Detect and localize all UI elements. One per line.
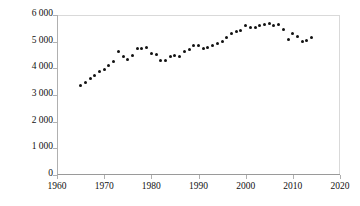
data-point <box>263 23 266 26</box>
y-axis-tick <box>53 68 57 69</box>
x-axis-tick <box>340 175 341 179</box>
data-point <box>178 55 181 58</box>
data-point <box>221 40 224 43</box>
x-axis-tick <box>293 175 294 179</box>
x-axis-tick <box>199 175 200 179</box>
data-point <box>136 47 139 50</box>
data-point <box>287 38 290 41</box>
data-point <box>89 77 92 80</box>
x-axis-label: 2000 <box>226 182 266 192</box>
y-axis-tick <box>53 15 57 16</box>
y-axis-label: 2 000 <box>32 116 53 126</box>
data-point <box>282 28 285 31</box>
data-point <box>192 44 195 47</box>
y-axis-label: 3 000 <box>32 89 53 99</box>
y-axis-label: 6 000 <box>32 9 53 19</box>
x-axis-tick <box>57 175 58 179</box>
data-point <box>145 46 148 49</box>
data-point <box>249 26 252 29</box>
data-point <box>98 70 101 73</box>
x-axis-label: 1990 <box>179 182 219 192</box>
data-point <box>84 81 87 84</box>
x-axis-label: 1980 <box>131 182 171 192</box>
data-point <box>244 24 247 27</box>
data-point <box>268 22 271 25</box>
data-point <box>230 32 233 35</box>
y-axis-tick <box>53 122 57 123</box>
y-axis-label: 5 000 <box>32 36 53 46</box>
data-point <box>188 48 191 51</box>
plot-area <box>57 15 340 175</box>
y-axis-tick <box>53 148 57 149</box>
data-point <box>169 55 172 58</box>
data-point <box>202 47 205 50</box>
x-axis-tick <box>104 175 105 179</box>
y-axis-label: 1 000 <box>32 142 53 152</box>
x-axis-tick <box>246 175 247 179</box>
data-point <box>235 30 238 33</box>
y-axis-label: 4 000 <box>32 62 53 72</box>
data-point <box>216 42 219 45</box>
scatter-chart: 01 0002 0003 0004 0005 0006 000 19601970… <box>0 0 360 206</box>
data-point <box>131 54 134 57</box>
y-axis-tick <box>53 95 57 96</box>
data-point <box>183 50 186 53</box>
x-axis-label: 2010 <box>273 182 313 192</box>
data-point <box>122 55 125 58</box>
y-axis-tick <box>53 42 57 43</box>
x-axis-label: 2020 <box>320 182 360 192</box>
data-point <box>254 26 257 29</box>
x-axis-label: 1970 <box>84 182 124 192</box>
data-point <box>155 53 158 56</box>
y-axis-label: 0 <box>48 169 53 179</box>
data-point <box>117 50 120 53</box>
data-point <box>103 68 106 71</box>
data-point <box>301 40 304 43</box>
x-axis-label: 1960 <box>37 182 77 192</box>
x-axis-tick <box>151 175 152 179</box>
